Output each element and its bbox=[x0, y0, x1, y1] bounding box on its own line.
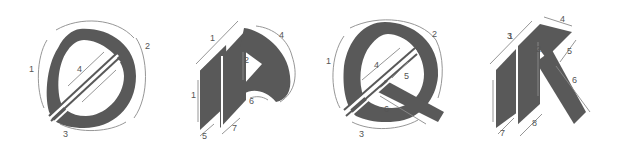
letter-k-stem-1 bbox=[496, 47, 518, 128]
stroke-label: 3 bbox=[63, 129, 68, 139]
stroke-label: 5 bbox=[567, 46, 572, 56]
stroke-label: 7 bbox=[500, 128, 505, 138]
stroke-label: 1 bbox=[326, 56, 331, 66]
stroke-label: 6 bbox=[572, 75, 577, 85]
stroke-label: 5 bbox=[202, 131, 207, 141]
stroke-label: 5 bbox=[404, 71, 409, 81]
stroke-label: 6 bbox=[384, 104, 389, 114]
stroke-order-diagram: 1 2 3 4 1 1 2 4 5 6 7 bbox=[0, 0, 617, 155]
letter-k-stem-2 bbox=[516, 24, 540, 126]
letter-o: 1 2 3 4 bbox=[29, 21, 150, 139]
stroke-label: 4 bbox=[279, 30, 284, 40]
letter-p: 1 1 2 4 5 6 7 bbox=[191, 21, 295, 141]
letter-q: 1 2 3 4 5 6 bbox=[326, 20, 444, 139]
stroke-label: 2 bbox=[145, 41, 150, 51]
stroke-label: 4 bbox=[374, 60, 379, 70]
stroke-label: 1 bbox=[210, 33, 215, 43]
stroke-label: 8 bbox=[532, 118, 537, 128]
stroke-label: 2 bbox=[244, 55, 249, 65]
stroke-label: 1 bbox=[29, 64, 34, 74]
stroke-label: 7 bbox=[232, 123, 237, 133]
stroke-label: 3 bbox=[507, 31, 512, 41]
stroke-label: 6 bbox=[249, 96, 254, 106]
stroke-label: 2 bbox=[536, 44, 541, 54]
letter-k: 1 2 3 4 5 6 7 8 bbox=[490, 14, 590, 138]
stroke-label: 4 bbox=[560, 14, 565, 24]
stroke-label: 1 bbox=[191, 90, 196, 100]
stroke-label: 2 bbox=[432, 29, 437, 39]
stroke-label: 3 bbox=[359, 129, 364, 139]
stroke-label: 4 bbox=[77, 64, 82, 74]
